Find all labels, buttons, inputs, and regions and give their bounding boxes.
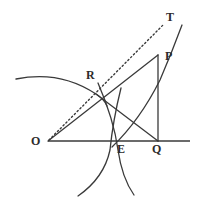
geometry-figure: O R T P E Q (0, 0, 202, 211)
geometry-canvas (0, 0, 202, 211)
point-label-P: P (165, 50, 172, 62)
point-label-O: O (31, 135, 40, 147)
point-label-R: R (86, 69, 95, 81)
point-label-E: E (117, 143, 125, 155)
curve-from-E-to-T (112, 25, 182, 147)
point-label-Q: Q (152, 143, 161, 155)
point-label-T: T (166, 11, 174, 23)
dotted-ray-O-to-T (49, 24, 164, 140)
